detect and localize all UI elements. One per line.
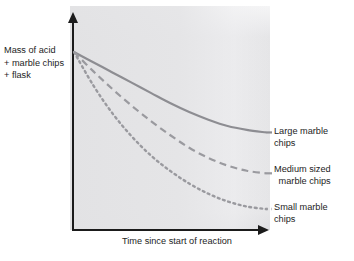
- series-curve-small: [74, 52, 266, 209]
- series-curve-medium: [74, 52, 266, 173]
- chart-figure: Mass of acid + marble chips + flask Time…: [0, 0, 354, 261]
- x-axis-title: Time since start of reaction: [122, 235, 232, 248]
- series-curve-large: [74, 52, 266, 132]
- series-label-medium-sized-marble-chips: Medium sized marble chips: [274, 164, 331, 187]
- series-paths: [74, 52, 272, 209]
- y-axis-title: Mass of acid + marble chips + flask: [4, 44, 64, 82]
- series-label-large-marble-chips: Large marble chips: [274, 126, 328, 149]
- series-label-small-marble-chips: Small marble chips: [274, 202, 328, 225]
